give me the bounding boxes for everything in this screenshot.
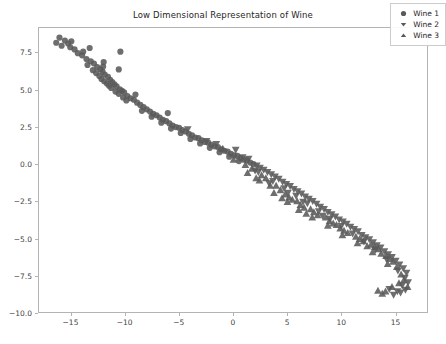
y-tick-mark: [35, 313, 38, 314]
page-title: Low Dimensional Representation of Wine: [0, 10, 446, 20]
series-3-points: [219, 145, 412, 297]
y-tick-label: −2.5: [0, 197, 32, 206]
x-tick-label: 10: [337, 318, 347, 327]
data-point: [168, 126, 174, 132]
data-point: [56, 35, 62, 41]
y-tick-label: 5.0: [0, 85, 32, 94]
y-tick-mark: [35, 276, 38, 277]
x-tick-mark: [287, 313, 288, 316]
y-tick-label: −7.5: [0, 271, 32, 280]
y-tick-label: 7.5: [0, 48, 32, 57]
legend-item-label: Wine 1: [410, 9, 439, 18]
data-point: [101, 59, 107, 65]
x-tick-label: −15: [63, 318, 79, 327]
data-point: [270, 189, 278, 196]
x-tick-mark: [396, 313, 397, 316]
data-point: [68, 38, 74, 44]
data-point: [87, 45, 93, 51]
data-point: [80, 49, 86, 55]
data-point: [374, 287, 382, 294]
x-tick-label: −5: [173, 318, 184, 327]
scatter-plot-canvas: [39, 28, 427, 312]
data-point: [116, 66, 122, 72]
legend-item-label: Wine 3: [410, 31, 439, 40]
plot-axes: [38, 27, 428, 313]
data-point: [226, 154, 232, 160]
circle-marker-icon: [396, 10, 410, 17]
x-tick-label: 15: [391, 318, 401, 327]
data-point: [165, 110, 171, 116]
legend-item-3[interactable]: Wine 3: [396, 30, 439, 41]
y-tick-mark: [35, 164, 38, 165]
data-point: [158, 120, 164, 126]
x-tick-label: −10: [117, 318, 133, 327]
y-tick-mark: [35, 90, 38, 91]
y-tick-mark: [35, 127, 38, 128]
x-tick-mark: [341, 313, 342, 316]
legend-item-label: Wine 2: [410, 20, 439, 29]
data-point: [139, 108, 145, 114]
y-tick-label: 0.0: [0, 160, 32, 169]
data-point: [132, 91, 138, 97]
y-tick-mark: [35, 52, 38, 53]
data-point: [53, 40, 59, 46]
x-tick-label: 0: [231, 318, 236, 327]
x-tick-mark: [233, 313, 234, 316]
data-point: [197, 140, 203, 146]
data-point: [59, 43, 65, 49]
data-point: [117, 49, 123, 55]
series-1-points: [53, 35, 256, 168]
matplotlib-figure: Low Dimensional Representation of Wine 7…: [0, 0, 446, 344]
data-point: [84, 62, 90, 68]
x-tick-mark: [179, 313, 180, 316]
x-tick-mark: [125, 313, 126, 316]
x-tick-mark: [71, 313, 72, 316]
data-point: [187, 136, 193, 142]
y-tick-mark: [35, 201, 38, 202]
y-tick-mark: [35, 239, 38, 240]
data-point: [178, 130, 184, 136]
triangle-up-marker-icon: [396, 32, 410, 39]
data-point: [123, 97, 129, 103]
data-point: [149, 114, 155, 120]
legend-item-1[interactable]: Wine 1: [396, 8, 439, 19]
triangle-down-marker-icon: [396, 21, 410, 28]
x-tick-label: 5: [285, 318, 290, 327]
data-point: [207, 145, 213, 151]
y-tick-label: −5.0: [0, 234, 32, 243]
chart-legend: Wine 1Wine 2Wine 3: [390, 3, 446, 46]
legend-item-2[interactable]: Wine 2: [396, 19, 439, 30]
data-point: [236, 158, 242, 164]
y-tick-label: −10.0: [0, 309, 32, 318]
y-tick-label: 2.5: [0, 122, 32, 131]
